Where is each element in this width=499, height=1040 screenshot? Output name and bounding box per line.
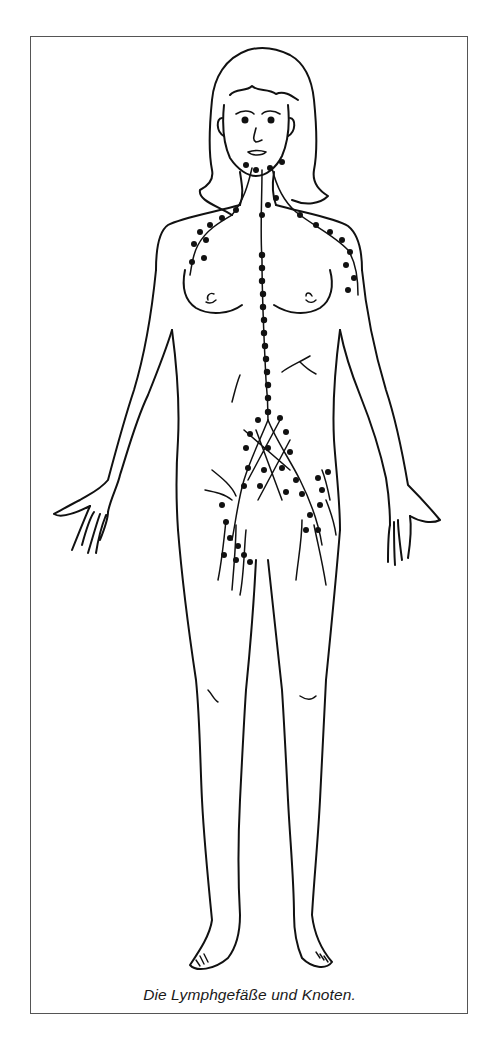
left-arm <box>54 270 172 553</box>
face <box>218 105 295 176</box>
legs <box>178 530 340 969</box>
right-arm <box>340 270 440 565</box>
figure-caption: Die Lymphgefäße und Knoten. <box>0 986 499 1004</box>
torso <box>172 270 340 530</box>
lymphatic-body-illustration <box>0 0 499 1040</box>
